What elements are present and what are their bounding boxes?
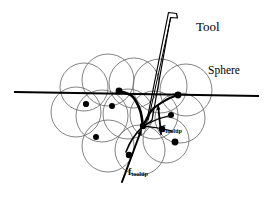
tool-label: Tool xyxy=(196,20,220,33)
force-subscript-lower: tooltip xyxy=(131,170,148,177)
sphere-center-dot-group xyxy=(83,88,182,159)
sphere-center-dot xyxy=(109,103,115,109)
sphere-center-dot xyxy=(140,123,146,129)
sphere-outline xyxy=(82,120,134,172)
tool-shape xyxy=(147,13,178,125)
sphere-center-dot xyxy=(83,101,89,107)
surface-line xyxy=(15,92,258,96)
sphere-center-dot xyxy=(116,88,123,95)
force-subscript-upper: tooltip xyxy=(165,127,182,134)
sphere-center-dot xyxy=(93,134,99,140)
sphere-center-dot xyxy=(175,92,182,99)
force-label-upper: ftooltip xyxy=(162,124,182,135)
sphere-label: Sphere xyxy=(208,65,240,77)
sphere-outline xyxy=(160,64,212,116)
sphere-center-dot xyxy=(172,139,179,146)
figure-container: Tool Sphere ftooltip ftooltip xyxy=(0,0,272,198)
sphere-outline xyxy=(82,54,134,106)
sphere-center-dot xyxy=(168,112,174,118)
force-label-lower: ftooltip xyxy=(128,167,148,178)
